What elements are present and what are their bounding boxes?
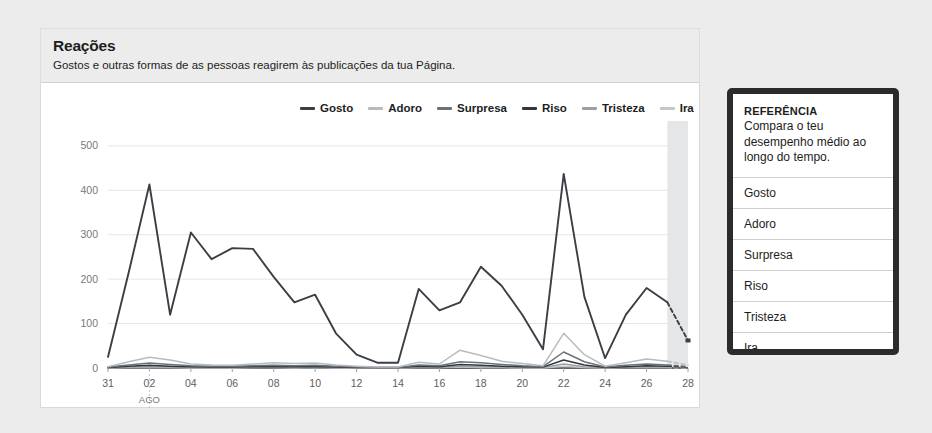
reference-row-label: Surpresa [744, 248, 793, 262]
chart-canvas: 0100200300400500310204060810121416182022… [40, 84, 700, 408]
reference-panel-title: REFERÊNCIA [744, 104, 882, 118]
y-axis-tick-label: 400 [80, 184, 98, 196]
x-axis-tick-label: 18 [475, 377, 487, 389]
x-axis-tick-label: 14 [392, 377, 404, 389]
x-axis-tick-label: 04 [185, 377, 197, 389]
x-axis-tick-label: 06 [226, 377, 238, 389]
reference-row-ira[interactable]: Ira [733, 333, 893, 356]
x-axis-tick-label: 12 [351, 377, 363, 389]
reference-row-riso[interactable]: Riso [733, 271, 893, 302]
reactions-line-chart: 0100200300400500310204060810121416182022… [40, 84, 700, 408]
y-axis-tick-label: 300 [80, 228, 98, 240]
month-label: AGO [139, 394, 160, 405]
x-axis-tick-label: 22 [558, 377, 570, 389]
reference-panel: REFERÊNCIA Compara o teu desempenho médi… [727, 88, 899, 355]
reference-panel-description: Compara o teu desempenho médio ao longo … [744, 119, 882, 166]
page-title: Reações [53, 37, 699, 55]
x-axis-tick-label: 10 [309, 377, 321, 389]
reference-row-label: Riso [744, 279, 768, 293]
y-axis-tick-label: 0 [92, 362, 98, 374]
reference-row-adoro[interactable]: Adoro [733, 209, 893, 240]
page-subtitle: Gostos e outras formas de as pessoas rea… [53, 58, 699, 72]
y-axis-tick-label: 500 [80, 139, 98, 151]
reference-row-tristeza[interactable]: Tristeza [733, 302, 893, 333]
reference-panel-header: REFERÊNCIA Compara o teu desempenho médi… [733, 94, 893, 178]
reference-row-gosto[interactable]: Gosto [733, 178, 893, 209]
series-end-marker [686, 338, 691, 342]
x-axis-tick-label: 31 [102, 377, 114, 389]
card-header: Reações Gostos e outras formas de as pes… [40, 28, 700, 83]
y-axis-tick-label: 200 [80, 273, 98, 285]
reference-row-label: Gosto [744, 186, 776, 200]
y-axis-tick-label: 100 [80, 317, 98, 329]
x-axis-tick-label: 20 [516, 377, 528, 389]
x-axis-tick-label: 28 [682, 377, 694, 389]
x-axis-tick-label: 16 [434, 377, 446, 389]
series-line-gosto [108, 174, 667, 363]
reactions-report-page: Reações Gostos e outras formas de as pes… [0, 0, 932, 433]
reference-row-surpresa[interactable]: Surpresa [733, 240, 893, 271]
reference-row-label: Ira [744, 341, 758, 355]
reference-row-label: Adoro [744, 217, 776, 231]
forecast-band [667, 121, 688, 368]
x-axis-tick-label: 24 [599, 377, 611, 389]
x-axis-tick-label: 26 [641, 377, 653, 389]
x-axis-tick-label: 08 [268, 377, 280, 389]
reference-panel-rows: GostoAdoroSurpresaRisoTristezaIra [733, 178, 893, 356]
reference-row-label: Tristeza [744, 310, 786, 324]
